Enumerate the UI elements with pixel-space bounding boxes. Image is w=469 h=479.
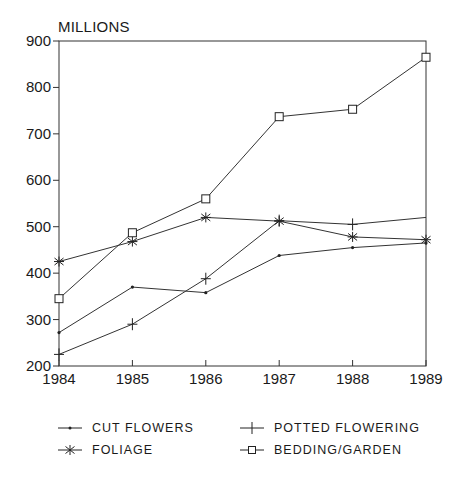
x-tick-label: 1984 xyxy=(42,370,75,387)
legend-label: POTTED FLOWERING xyxy=(274,421,420,435)
series-cut-flowers xyxy=(57,241,427,334)
legend: CUT FLOWERS POTTED FLOWERING FOLIAGE BED… xyxy=(0,421,469,471)
series-bedding-garden xyxy=(55,53,430,302)
legend-item-cut-flowers: CUT FLOWERS xyxy=(58,421,194,435)
legend-item-potted-flowering: POTTED FLOWERING xyxy=(240,421,420,435)
x-tick-label: 1989 xyxy=(409,370,442,387)
legend-item-foliage: FOLIAGE xyxy=(58,443,153,457)
x-tick-label: 1986 xyxy=(189,370,222,387)
y-tick-label: 500 xyxy=(26,218,51,235)
y-tick-label: 900 xyxy=(26,32,51,49)
dot-marker-icon xyxy=(58,421,82,435)
y-axis-label: MILLIONS xyxy=(58,18,130,35)
asterisk-marker-icon xyxy=(58,443,82,457)
series-potted-flowering xyxy=(54,215,426,361)
plus-marker-icon xyxy=(240,421,264,435)
plot-frame xyxy=(59,41,426,366)
square-marker-icon xyxy=(240,443,264,457)
line-chart: 2003004005006007008009001984198519861987… xyxy=(0,0,469,479)
series-foliage xyxy=(54,212,431,266)
x-tick-label: 1987 xyxy=(263,370,296,387)
x-tick-label: 1988 xyxy=(336,370,369,387)
legend-label: BEDDING/GARDEN xyxy=(274,443,402,457)
y-tick-label: 400 xyxy=(26,264,51,281)
legend-label: FOLIAGE xyxy=(92,443,153,457)
legend-label: CUT FLOWERS xyxy=(92,421,194,435)
x-tick-label: 1985 xyxy=(116,370,149,387)
y-tick-label: 300 xyxy=(26,311,51,328)
y-tick-label: 600 xyxy=(26,171,51,188)
y-tick-label: 700 xyxy=(26,125,51,142)
legend-item-bedding-garden: BEDDING/GARDEN xyxy=(240,443,402,457)
y-tick-label: 800 xyxy=(26,78,51,95)
